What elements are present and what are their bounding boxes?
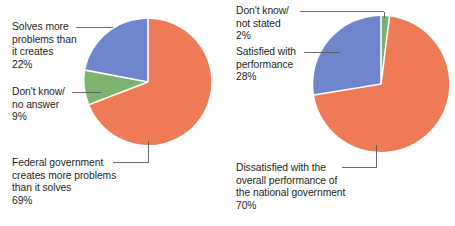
right-label-satisfied: Satisfied with performance 28%	[236, 46, 340, 84]
right-label-dissatisfied: Dissatisfied with the overall performanc…	[236, 162, 396, 212]
left-label-solves-more-problems: Solves more problems than it creates 22%	[12, 21, 116, 71]
right-label-dont-know: Don't know/ not stated 2%	[236, 5, 340, 43]
left-label-federal-government: Federal government creates more problems…	[12, 157, 152, 207]
pie-chart-figure: Solves more problems than it creates 22%…	[0, 0, 455, 226]
left-label-dont-know: Don't know/ no answer 9%	[12, 86, 116, 124]
